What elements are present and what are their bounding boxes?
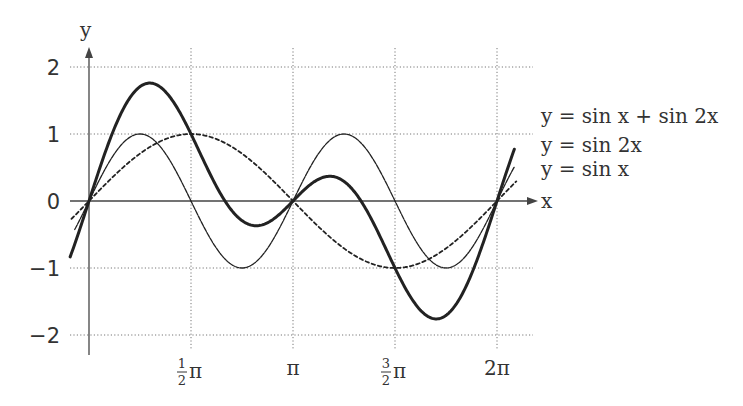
- y-tick-label: −1: [29, 257, 60, 281]
- y-tick-label: 2: [47, 56, 60, 80]
- legend-item-sum: y = sin x + sin 2x: [540, 104, 719, 128]
- y-axis-arrow-icon: [85, 47, 93, 58]
- y-tick-label: 1: [47, 123, 60, 147]
- x-tick-pi: π: [189, 359, 202, 383]
- grid-lines: [70, 48, 533, 350]
- legend-item-sin2x: y = sin 2x: [540, 133, 642, 157]
- y-tick-label: 0: [47, 190, 60, 214]
- x-tick-frac-den: 2: [382, 373, 390, 388]
- legend: y = sin x + sin 2x y = sin 2x y = sin x: [540, 104, 719, 181]
- x-axis-arrow-icon: [527, 197, 538, 205]
- x-tick-pi: π: [393, 359, 406, 383]
- axes: y x: [70, 18, 553, 355]
- legend-item-sinx: y = sin x: [540, 157, 630, 181]
- x-tick-frac-num: 1: [178, 356, 186, 371]
- x-tick-label: 2π: [484, 356, 510, 380]
- y-axis-label: y: [79, 18, 92, 42]
- y-tick-label: −2: [29, 324, 60, 348]
- x-axis-label: x: [541, 189, 553, 213]
- x-tick-frac-den: 2: [178, 373, 186, 388]
- function-plot: y x 210−1−212ππ32π2π y = sin x + sin 2x …: [0, 0, 743, 406]
- x-tick-label: π: [286, 356, 299, 380]
- x-tick-frac-num: 3: [382, 356, 390, 371]
